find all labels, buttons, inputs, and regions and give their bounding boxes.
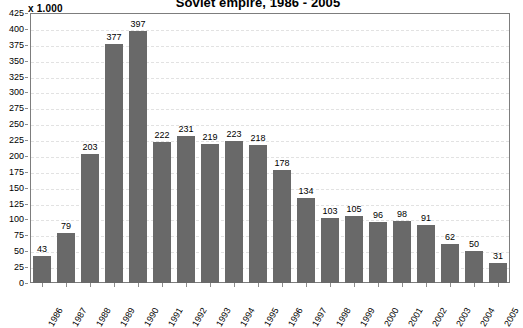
x-tick-mark (498, 283, 499, 287)
bar-slot: 43 (30, 13, 54, 283)
bar-value-label: 96 (373, 211, 383, 220)
bar[interactable] (177, 136, 195, 283)
y-tick-mark (25, 219, 28, 220)
x-tick-label: 2004 (489, 289, 507, 311)
bar[interactable] (321, 218, 339, 283)
bar[interactable] (489, 263, 507, 283)
x-tick-label-text: 1994 (239, 306, 257, 328)
bar-slot: 62 (438, 13, 462, 283)
bar[interactable] (345, 216, 363, 283)
y-tick-mark (25, 235, 28, 236)
x-tick-label-text: 1987 (71, 306, 89, 328)
x-tick-label: 1992 (201, 289, 219, 311)
x-tick-label-text: 1991 (167, 306, 185, 328)
x-tick-label-text: 1997 (311, 306, 329, 328)
bar-value-label: 203 (82, 143, 97, 152)
x-tick-label-text: 2004 (479, 306, 497, 328)
bar[interactable] (201, 144, 219, 283)
x-tick-label: 1996 (297, 289, 315, 311)
y-tick-label: 125 (9, 199, 24, 208)
x-tick-label: 1991 (177, 289, 195, 311)
y-tick-label: 300 (9, 88, 24, 97)
bar-slot: 91 (414, 13, 438, 283)
x-tick-label: 1994 (249, 289, 267, 311)
bar-slot: 96 (366, 13, 390, 283)
x-tick-mark (282, 283, 283, 287)
bar-slot: 218 (246, 13, 270, 283)
bar[interactable] (441, 244, 459, 283)
bar-value-label: 134 (298, 187, 313, 196)
bar[interactable] (81, 154, 99, 283)
y-tick-mark (25, 77, 28, 78)
y-tick-label: 350 (9, 56, 24, 65)
x-tick-label-text: 1993 (215, 306, 233, 328)
bar-value-label: 62 (445, 233, 455, 242)
bar[interactable] (153, 142, 171, 283)
y-tick-mark (25, 61, 28, 62)
x-tick-mark (138, 283, 139, 287)
x-tick-label: 1999 (369, 289, 387, 311)
y-tick-label: 325 (9, 72, 24, 81)
y-tick-mark (25, 283, 28, 284)
bar-slot: 103 (318, 13, 342, 283)
bar-slot: 231 (174, 13, 198, 283)
bar[interactable] (417, 225, 435, 283)
bar[interactable] (225, 141, 243, 283)
x-tick-label: 1993 (225, 289, 243, 311)
bar[interactable] (57, 233, 75, 283)
bar[interactable] (465, 251, 483, 283)
bar[interactable] (105, 44, 123, 284)
x-tick-label: 2005 (513, 289, 523, 311)
x-tick-label: 1995 (273, 289, 291, 311)
bar-value-label: 50 (469, 240, 479, 249)
bar-value-label: 98 (397, 210, 407, 219)
y-tick-label: 250 (9, 120, 24, 129)
y-tick-mark (25, 45, 28, 46)
bar-slot: 222 (150, 13, 174, 283)
y-tick-label: 225 (9, 136, 24, 145)
y-tick-mark (25, 156, 28, 157)
x-tick-label: 1988 (105, 289, 123, 311)
x-tick-label: 2001 (417, 289, 435, 311)
bar-slot: 79 (54, 13, 78, 283)
y-tick-mark (25, 188, 28, 189)
y-tick-mark (25, 140, 28, 141)
bar-value-label: 43 (37, 245, 47, 254)
bar-value-label: 223 (226, 130, 241, 139)
bar[interactable] (393, 221, 411, 283)
chart-title: Soviet empire, 1986 - 2005 (0, 0, 516, 10)
y-tick-mark (25, 204, 28, 205)
y-tick-mark (25, 267, 28, 268)
x-tick-label-text: 2005 (503, 306, 521, 328)
bar[interactable] (297, 198, 315, 283)
x-tick-label: 1998 (345, 289, 363, 311)
y-tick-label: 175 (9, 167, 24, 176)
x-tick-mark (186, 283, 187, 287)
x-tick-mark (210, 283, 211, 287)
bar[interactable] (273, 170, 291, 283)
x-tick-label: 1986 (57, 289, 75, 311)
bar-value-label: 377 (106, 33, 121, 42)
bar-value-label: 178 (274, 159, 289, 168)
y-tick-mark (25, 92, 28, 93)
x-tick-mark (330, 283, 331, 287)
x-tick-mark (426, 283, 427, 287)
bar-value-label: 91 (421, 214, 431, 223)
y-tick-label: 400 (9, 24, 24, 33)
x-axis: 1986198719881989199019911992199319941995… (30, 283, 510, 321)
y-tick-mark (25, 172, 28, 173)
y-tick-mark (25, 13, 28, 14)
bar[interactable] (129, 31, 147, 283)
x-tick-mark (258, 283, 259, 287)
bar[interactable] (369, 222, 387, 283)
y-tick-mark (25, 29, 28, 30)
x-tick-label-text: 1998 (335, 306, 353, 328)
bar[interactable] (249, 145, 267, 283)
x-tick-label: 1989 (129, 289, 147, 311)
y-tick-label: 0 (19, 279, 24, 288)
bar-value-label: 231 (178, 125, 193, 134)
y-tick-mark (25, 108, 28, 109)
bar[interactable] (33, 256, 51, 283)
bar-slot: 219 (198, 13, 222, 283)
y-tick-label: 200 (9, 151, 24, 160)
